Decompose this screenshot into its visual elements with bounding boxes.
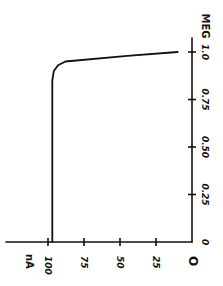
x-axis-title: MEG xyxy=(200,14,211,39)
x-tick-label: 1.0 xyxy=(200,44,210,60)
chart: 00.250.500.751.0MEGO255075100nA xyxy=(0,0,223,286)
y-tick-label: 25 xyxy=(151,256,161,269)
data-curve xyxy=(52,52,177,242)
x-tick-label: 0.50 xyxy=(200,136,210,158)
y-tick-label: 75 xyxy=(79,256,89,269)
y-tick-label: O xyxy=(186,256,200,266)
x-tick-label: 0.75 xyxy=(200,88,210,110)
x-tick-label: 0 xyxy=(200,239,210,245)
y-tick-label: 50 xyxy=(115,256,125,269)
y-axis-title: nA xyxy=(24,254,35,269)
axis-ticks xyxy=(48,52,196,246)
x-tick-label: 0.25 xyxy=(200,183,210,205)
y-tick-label: 100 xyxy=(43,256,53,275)
